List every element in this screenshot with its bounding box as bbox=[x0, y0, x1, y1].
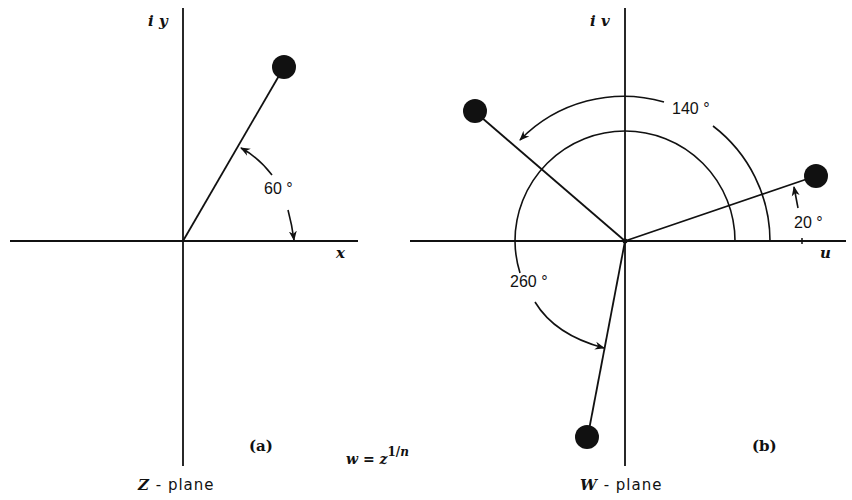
outer-angle-arc-right bbox=[713, 126, 770, 241]
root-vector-140 bbox=[481, 117, 625, 241]
panel-a-label: (a) bbox=[249, 437, 273, 455]
z-angle-label: 60 ° bbox=[264, 180, 293, 198]
z-plane-var: Z bbox=[138, 476, 150, 494]
z-vector bbox=[183, 55, 296, 241]
w-angle-20-label: 20 ° bbox=[794, 214, 823, 232]
z-plane-axes bbox=[10, 8, 358, 466]
w-plane-iv-label: i v bbox=[590, 12, 610, 30]
z-plane-iy-label: i y bbox=[148, 12, 168, 30]
w-plane-suffix: - plane bbox=[598, 476, 663, 494]
w-angle-140-label: 140 ° bbox=[672, 100, 710, 118]
diagram-canvas bbox=[0, 0, 852, 500]
formula-exponent: 1/n bbox=[387, 445, 408, 459]
root-vector-20 bbox=[625, 178, 810, 241]
root-dot-20 bbox=[804, 164, 828, 188]
arc-20-arrow bbox=[794, 187, 798, 208]
root-dot-260 bbox=[575, 425, 599, 449]
arc-260-arrow bbox=[535, 302, 604, 348]
mapping-formula: w = z1/n bbox=[346, 447, 409, 467]
w-plane-axes bbox=[410, 8, 846, 466]
formula-lhs: w = z bbox=[346, 451, 387, 467]
w-angle-260-label: 260 ° bbox=[510, 273, 548, 291]
z-plane-suffix: - plane bbox=[150, 476, 215, 494]
z-point-dot bbox=[272, 55, 296, 79]
w-origin-dot bbox=[623, 239, 628, 244]
w-plane-u-label: u bbox=[820, 244, 831, 262]
root-vector-260 bbox=[589, 241, 625, 430]
z-plane-title: Z - plane bbox=[138, 476, 215, 494]
w-plane-title: W - plane bbox=[580, 476, 662, 494]
root-dot-140 bbox=[463, 99, 487, 123]
outer-angle-arc-left bbox=[520, 96, 664, 140]
w-plane-var: W bbox=[580, 476, 598, 494]
panel-b-label: (b) bbox=[752, 437, 777, 455]
z-plane-x-label: x bbox=[336, 244, 345, 262]
